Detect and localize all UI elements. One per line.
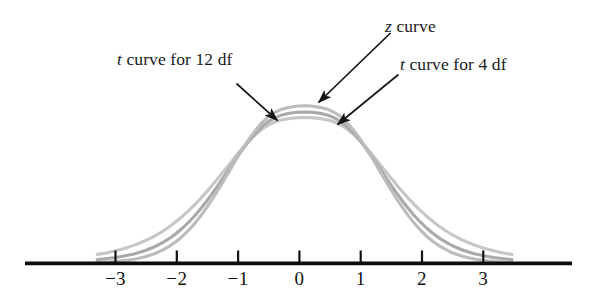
- annotation-z-curve: z curve: [385, 17, 436, 36]
- arrow-to-t12-curve: [237, 84, 278, 121]
- arrow-to-t4-curve: [338, 75, 399, 125]
- tick-label-plus3: 3: [463, 268, 503, 290]
- annotation-t-curve-12df-text: curve for 12 df: [122, 49, 232, 69]
- curve-plot: [0, 0, 598, 306]
- annotation-t-curve-12df: t curve for 12 df: [117, 50, 232, 69]
- arrow-to-z-curve: [319, 33, 391, 103]
- tick-label-minus1: −1: [218, 268, 258, 290]
- curve-z: [97, 106, 512, 262]
- statistics-figure: z curve t curve for 12 df t curve for 4 …: [0, 0, 598, 306]
- annotation-t-curve-4df-text: curve for 4 df: [405, 54, 507, 74]
- tick-label-plus1: 1: [341, 268, 381, 290]
- tick-label-plus2: 2: [402, 268, 442, 290]
- tick-label-minus3: −3: [96, 268, 136, 290]
- curve-t-4df: [97, 118, 512, 255]
- annotation-z-curve-text: curve: [392, 16, 436, 36]
- curve-t-12df: [97, 112, 512, 260]
- annotation-t-curve-4df: t curve for 4 df: [400, 55, 507, 74]
- axis-ticks: [116, 251, 484, 264]
- annotation-z-curve-symbol: z: [385, 16, 392, 36]
- tick-label-minus2: −2: [157, 268, 197, 290]
- tick-label-zero: 0: [279, 268, 319, 290]
